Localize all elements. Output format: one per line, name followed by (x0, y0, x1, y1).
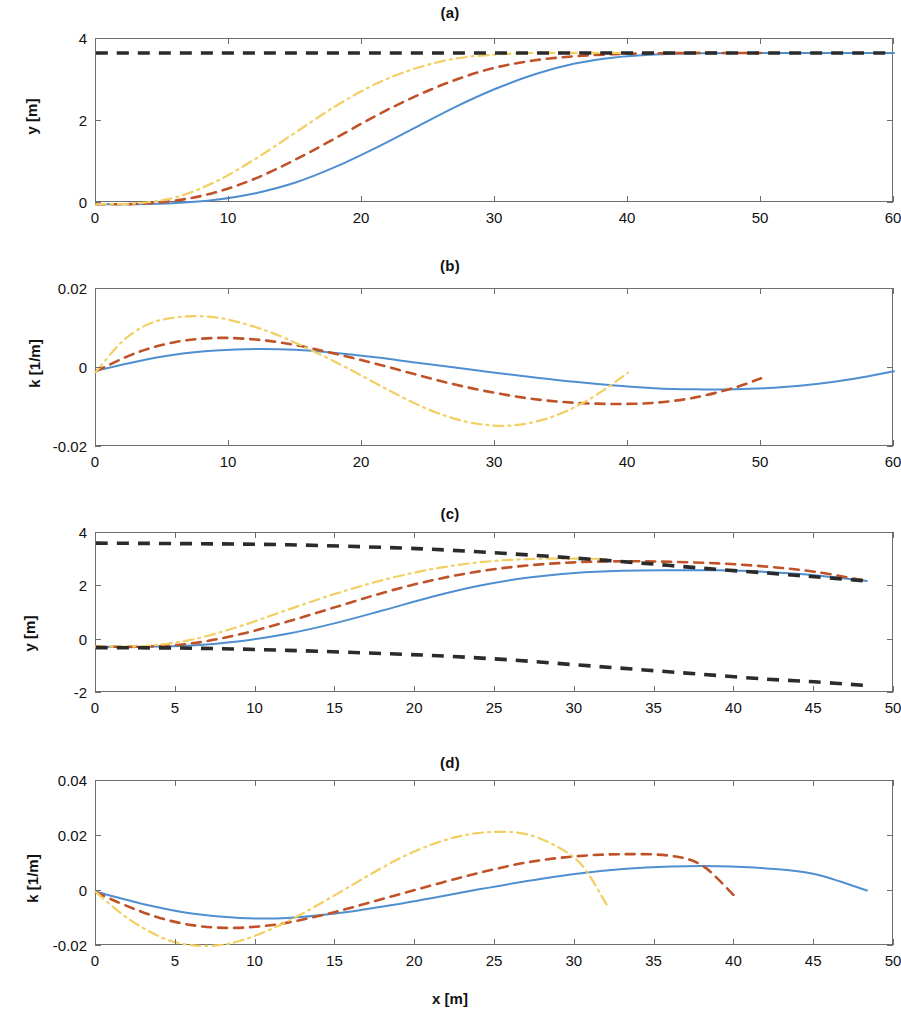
x-tick-b-6 (893, 440, 894, 446)
x-tick-b-3 (494, 440, 495, 446)
panel-d-title: (d) (0, 754, 900, 771)
panel-d: (d) k [1/m] x [m] 05101520253035404550-0… (0, 750, 900, 1014)
y-tick-c-3 (887, 532, 893, 533)
x-tick-d-7 (654, 939, 655, 945)
x-tick-c-10 (893, 686, 894, 692)
x-tick-label-b-2: 20 (353, 453, 370, 470)
x-tick-label-a-4: 40 (619, 209, 636, 226)
x-tick-label-d-9: 45 (805, 952, 822, 969)
series-curvature-medium (96, 854, 734, 928)
x-tick-b-2 (361, 440, 362, 446)
panel-b-title: (b) (0, 257, 900, 274)
y-tick-d-0 (887, 945, 893, 946)
x-tick-c-9 (813, 686, 814, 692)
x-tick-label-d-8: 40 (725, 952, 742, 969)
x-tick-a-5 (760, 38, 761, 44)
x-tick-a-4 (627, 38, 628, 44)
panel-c-plot-area (95, 532, 893, 692)
y-tick-label-d-3: 0.04 (58, 772, 87, 789)
x-tick-d-8 (733, 939, 734, 945)
y-tick-c-0 (887, 692, 893, 693)
x-tick-label-b-4: 40 (619, 453, 636, 470)
x-tick-c-10 (893, 532, 894, 538)
x-tick-label-c-3: 15 (326, 699, 343, 716)
x-tick-d-8 (733, 780, 734, 786)
y-tick-d-2 (95, 835, 101, 836)
y-tick-b-1 (887, 367, 893, 368)
series-curvature-fast (96, 316, 628, 426)
x-tick-c-5 (494, 532, 495, 538)
panel-c-title: (c) (0, 505, 900, 522)
y-tick-label-d-0: -0.02 (53, 937, 87, 954)
x-tick-label-c-5: 25 (486, 699, 503, 716)
y-tick-c-1 (887, 639, 893, 640)
x-tick-label-c-10: 50 (885, 699, 901, 716)
series-trajectory-medium (96, 53, 761, 204)
y-tick-d-0 (95, 945, 101, 946)
x-tick-b-5 (760, 440, 761, 446)
x-tick-label-a-6: 60 (885, 209, 901, 226)
x-tick-label-c-2: 10 (246, 699, 263, 716)
x-tick-label-b-1: 10 (220, 453, 237, 470)
x-tick-a-6 (893, 196, 894, 202)
x-tick-b-2 (361, 288, 362, 294)
y-tick-label-a-2: 4 (79, 30, 87, 47)
x-tick-label-c-7: 35 (645, 699, 662, 716)
y-tick-c-3 (95, 532, 101, 533)
x-tick-c-7 (654, 686, 655, 692)
x-tick-d-7 (654, 780, 655, 786)
x-tick-a-4 (627, 196, 628, 202)
x-tick-label-c-0: 0 (91, 699, 99, 716)
series-curvature-slow (96, 349, 894, 389)
x-tick-c-5 (494, 686, 495, 692)
y-tick-b-2 (887, 288, 893, 289)
x-tick-label-b-3: 30 (486, 453, 503, 470)
x-tick-a-2 (361, 38, 362, 44)
x-tick-d-10 (893, 939, 894, 945)
x-tick-label-d-5: 25 (486, 952, 503, 969)
x-tick-c-3 (334, 686, 335, 692)
y-tick-d-3 (887, 780, 893, 781)
x-tick-label-c-6: 30 (565, 699, 582, 716)
x-tick-c-7 (654, 532, 655, 538)
panel-b-ylabel: k [1/m] (26, 314, 43, 414)
x-tick-label-a-1: 10 (220, 209, 237, 226)
x-tick-label-d-7: 35 (645, 952, 662, 969)
x-tick-label-a-0: 0 (91, 209, 99, 226)
y-tick-b-1 (95, 367, 101, 368)
y-tick-a-1 (887, 120, 893, 121)
x-tick-d-5 (494, 780, 495, 786)
panel-a-title: (a) (0, 4, 900, 21)
series-curvature-medium (96, 338, 761, 404)
panel-d-ylabel: k [1/m] (24, 829, 41, 929)
x-tick-label-d-1: 5 (171, 952, 179, 969)
x-tick-c-6 (574, 532, 575, 538)
y-tick-a-2 (95, 38, 101, 39)
x-tick-d-2 (255, 780, 256, 786)
x-tick-c-8 (733, 686, 734, 692)
panel-a: (a) y [m] 0102030405060024 (0, 0, 900, 250)
y-tick-b-0 (95, 446, 101, 447)
x-tick-c-1 (175, 532, 176, 538)
x-tick-b-6 (893, 288, 894, 294)
x-tick-label-d-3: 15 (326, 952, 343, 969)
y-tick-label-c-3: 4 (79, 524, 87, 541)
y-tick-label-c-0: -2 (74, 684, 87, 701)
x-tick-d-4 (414, 939, 415, 945)
x-tick-c-3 (334, 532, 335, 538)
y-tick-label-b-1: 0 (79, 359, 87, 376)
panel-a-curves (96, 39, 894, 203)
y-tick-label-a-0: 0 (79, 194, 87, 211)
series-trajectory-slow (96, 53, 894, 204)
y-tick-label-b-2: 0.02 (58, 280, 87, 297)
x-tick-label-b-6: 60 (885, 453, 901, 470)
y-tick-b-0 (887, 446, 893, 447)
panel-b: (b) k [1/m] 0102030405060-0.0200.02 (0, 250, 900, 500)
x-tick-b-4 (627, 440, 628, 446)
panel-c-ylabel: y [m] (21, 599, 38, 669)
x-tick-b-3 (494, 288, 495, 294)
x-tick-d-10 (893, 780, 894, 786)
x-tick-a-2 (361, 196, 362, 202)
y-tick-c-2 (887, 585, 893, 586)
x-tick-c-2 (255, 532, 256, 538)
